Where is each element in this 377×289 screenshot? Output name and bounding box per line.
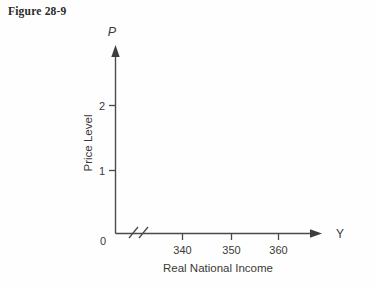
x-tick-label-360: 360 [269,244,287,256]
origin-label: 0 [100,235,106,247]
y-axis-title: Price Level [82,115,94,172]
price-level-income-graph: 2 1 0 340 350 360 P Y Price Level Real N… [0,0,377,289]
x-tick-label-340: 340 [173,244,191,256]
x-axis-title: Real National Income [163,262,273,274]
x-axis-symbol: Y [336,227,344,241]
figure-page: Figure 28-9 2 1 0 340 350 360 P Y P [0,0,377,289]
y-axis-arrow-icon [111,45,119,57]
x-axis-break-slash-icon [129,227,138,238]
y-tick-label-2: 2 [99,100,105,112]
x-tick-label-350: 350 [222,244,240,256]
y-tick-label-1: 1 [99,165,105,177]
x-axis-break-slash-icon [139,227,148,238]
x-axis-arrow-icon [310,229,322,237]
y-axis-symbol: P [108,25,117,39]
